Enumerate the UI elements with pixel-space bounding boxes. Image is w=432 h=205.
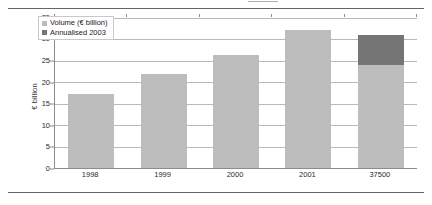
bar-slot-37500	[345, 18, 417, 168]
y-tick-label: 15	[28, 100, 50, 108]
chart-legend: Volume (€ billion) Annualised 2003	[38, 16, 114, 40]
bar-segment-volume	[68, 94, 114, 168]
legend-label: Annualised 2003	[50, 29, 106, 38]
plot-area	[54, 18, 417, 169]
bar-2000	[213, 55, 259, 168]
y-tick-label: 10	[28, 122, 50, 130]
x-tick-mark	[416, 14, 417, 17]
bar-37500	[358, 35, 404, 168]
x-tick-label: 2000	[199, 170, 271, 184]
bar-slot-2001	[272, 18, 344, 168]
bar-group	[55, 18, 417, 168]
bar-slot-1998	[55, 18, 127, 168]
y-tick-label: 25	[28, 57, 50, 65]
bar-2001	[285, 30, 331, 168]
y-tick-label: 5	[28, 143, 50, 151]
bar-slot-1999	[127, 18, 199, 168]
legend-item-annualised: Annualised 2003	[42, 29, 108, 38]
x-tick-mark	[344, 14, 345, 17]
figure-bottom-rule	[8, 192, 424, 193]
figure-top-rule-stub	[248, 1, 278, 2]
x-tick-label: 2001	[271, 170, 343, 184]
legend-swatch-icon	[42, 30, 47, 35]
x-tick-label: 1999	[126, 170, 198, 184]
bar-segment-volume	[358, 65, 404, 168]
bar-1998	[68, 94, 114, 168]
figure-top-rule	[8, 8, 424, 9]
bar-segment-volume	[213, 55, 259, 168]
bar-segment-volume	[285, 30, 331, 168]
chart-figure: € billion 35 30 25 20 15 10 5 0	[0, 0, 432, 205]
x-tick-mark	[126, 14, 127, 17]
y-tick-label: 0	[28, 165, 50, 173]
legend-label: Volume (€ billion)	[50, 19, 108, 28]
x-tick-mark	[271, 14, 272, 17]
bar-segment-volume	[141, 74, 187, 168]
x-tick-label: 1998	[54, 170, 126, 184]
legend-swatch-icon	[42, 21, 47, 26]
chart-area: € billion 35 30 25 20 15 10 5 0	[8, 14, 424, 180]
x-tick-label: 37500	[344, 170, 416, 184]
bar-1999	[141, 74, 187, 168]
bar-slot-2000	[200, 18, 272, 168]
y-tick-label: 20	[28, 79, 50, 87]
bar-segment-annualised	[358, 35, 404, 65]
x-axis-tick-labels: 1998 1999 2000 2001 37500	[54, 170, 416, 184]
legend-item-volume: Volume (€ billion)	[42, 19, 108, 28]
x-tick-mark	[199, 14, 200, 17]
